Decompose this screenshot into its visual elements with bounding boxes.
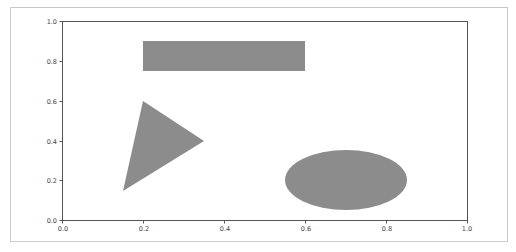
x-tick-label: 0.0 [58,225,68,233]
y-tick-label: 1.0 [47,18,57,26]
y-axis: 0.0 0.2 0.4 0.6 0.8 1.0 [47,18,63,225]
rectangle-shape [143,41,305,71]
y-tick-label: 0.2 [47,177,57,185]
y-tick-label: 0.8 [47,58,57,66]
x-axis: 0.0 0.2 0.4 0.6 0.8 1.0 [58,221,472,234]
x-tick-label: 0.2 [139,225,149,233]
ellipse-shape [285,150,407,210]
x-tick-label: 1.0 [462,225,472,233]
y-tick-label: 0.0 [47,217,57,225]
y-tick-label: 0.6 [47,98,57,106]
y-tick-label: 0.4 [47,138,57,146]
x-tick-label: 0.6 [301,225,311,233]
x-tick-label: 0.8 [382,225,392,233]
chart-svg: 0.0 0.2 0.4 0.6 0.8 1.0 0.0 0.2 0.4 0.6 … [0,0,516,252]
x-tick-label: 0.4 [220,225,230,233]
